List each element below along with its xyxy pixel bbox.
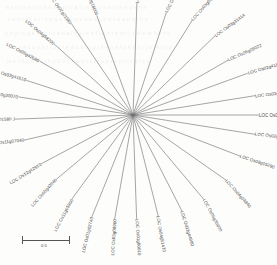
tree-branch <box>133 96 255 115</box>
tree-branch <box>133 115 137 219</box>
scale-bar-line <box>22 240 70 241</box>
tree-branch <box>97 15 133 115</box>
tree-branch <box>15 115 133 119</box>
tree-branch <box>71 24 133 115</box>
leaf-label: LOC Os11g01580 J <box>0 117 15 123</box>
tree-branch <box>133 20 192 115</box>
tree-branch <box>133 115 182 211</box>
scale-bar-label: 0.5 <box>41 243 47 248</box>
tree-branch <box>26 80 133 115</box>
tree-branch <box>24 115 133 140</box>
tree-branch <box>92 115 133 217</box>
tree-branch <box>41 115 133 164</box>
tree-branch <box>39 61 133 115</box>
leaf-label: LOC Os03g27960 <box>259 113 277 118</box>
tree-branch <box>72 115 133 199</box>
figure-canvas: a s n i e o n i t h e o e n t r a l r e … <box>0 0 277 265</box>
tree-branch <box>133 12 166 115</box>
tree-branch <box>133 115 240 156</box>
tree-branch <box>133 73 248 115</box>
tree-branch <box>133 3 137 115</box>
scale-tick-right <box>69 236 70 244</box>
tree-branch <box>133 36 215 115</box>
tree-branch <box>56 115 133 179</box>
tree-branch <box>115 115 133 219</box>
tree-branch <box>133 115 255 134</box>
tree-branch <box>133 60 228 115</box>
